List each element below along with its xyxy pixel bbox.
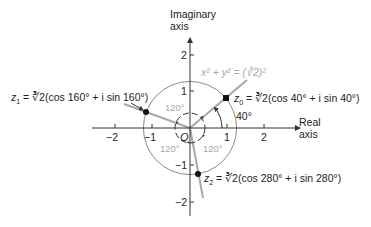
x-tick-neg1: −1 — [144, 132, 156, 143]
imag-label-line2: axis — [170, 20, 216, 32]
complex-plane-diagram — [0, 0, 371, 227]
y-tick-2: 2 — [181, 50, 187, 61]
z0-expr: = ∛2(cos 40° + i sin 40°) — [243, 92, 359, 104]
z1-label: z1 = ∛2(cos 160° + i sin 160°) — [11, 92, 148, 105]
z2-expr: = ∛2(cos 280° + i sin 280°) — [213, 172, 341, 184]
y-tick-1: 1 — [181, 86, 187, 97]
x-tick-1: 1 — [224, 132, 230, 143]
imag-label-line1: Imaginary — [170, 8, 216, 20]
real-axis-label: Real axis — [299, 116, 321, 140]
angle-120-right: 120° — [203, 144, 223, 154]
real-label-line1: Real — [299, 116, 321, 128]
point-z0 — [223, 95, 229, 101]
angle-40-label: 40° — [236, 111, 252, 122]
point-z1 — [143, 109, 149, 115]
y-tick-neg1: −1 — [175, 160, 187, 171]
x-tick-neg2: −2 — [106, 132, 118, 143]
angle-120-left: 120° — [160, 144, 180, 154]
z1-expr: = ∛2(cos 160° + i sin 160°) — [20, 91, 148, 103]
angle-arc-40 — [215, 107, 223, 128]
real-label-line2: axis — [299, 128, 321, 140]
x-tick-2: 2 — [261, 132, 267, 143]
z2-label: z2 = ∛2(cos 280° + i sin 280°) — [204, 173, 341, 186]
angle-120-top: 120° — [165, 103, 185, 113]
z0-label: z0 = ∛2(cos 40° + i sin 40°) — [234, 93, 360, 106]
y-tick-neg2: −2 — [175, 197, 187, 208]
origin-label: O — [180, 132, 189, 143]
circle-equation: x² + y² = (∛2)² — [201, 67, 266, 78]
imaginary-axis-label: Imaginary axis — [170, 8, 216, 32]
point-z2 — [195, 171, 201, 177]
